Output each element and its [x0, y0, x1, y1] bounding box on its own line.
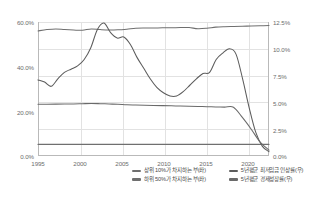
- series-line: [38, 103, 269, 150]
- left-axis-tick: 40.0%: [2, 64, 34, 71]
- series-line: [38, 26, 269, 31]
- legend-item-gdp-growth[interactable]: 5년평균 경제성장률(우): [229, 177, 320, 183]
- x-axis-tick: 2020: [228, 160, 268, 167]
- legend-item-bottom50-wealth[interactable]: 하위 50%가 차지하는 부(좌): [132, 177, 223, 183]
- legend-item-top10-wealth[interactable]: 상위 10%가 차지하는 부(좌): [132, 168, 223, 174]
- left-axis-tick: 20.0%: [2, 109, 34, 116]
- legend-label: 5년평균 최저임금 인상률(우): [241, 168, 304, 174]
- right-axis-tick: 0.0%: [273, 153, 307, 160]
- legend-item-minwage-growth[interactable]: 5년평균 최저임금 인상률(우): [229, 168, 320, 174]
- x-axis-tick: 1995: [18, 160, 58, 167]
- legend-label: 하위 50%가 차지하는 부(좌): [144, 177, 206, 183]
- series-layer: [38, 22, 269, 156]
- right-axis-tick: 5.0%: [273, 100, 307, 107]
- x-axis-tick: 2015: [186, 160, 226, 167]
- chart-legend: 상위 10%가 차지하는 부(좌) 5년평균 최저임금 인상률(우) 하위 50…: [132, 168, 320, 182]
- legend-label: 상위 10%가 차지하는 부(좌): [144, 168, 206, 174]
- x-axis-tick: 2010: [144, 160, 184, 167]
- chart-container: 60.0% 40.0% 20.0% 0.0% 12.5% 10.0% 7.5% …: [0, 0, 321, 202]
- legend-swatch-icon: [132, 170, 141, 173]
- right-axis-tick: 7.5%: [273, 73, 307, 80]
- x-axis-tick: 2005: [102, 160, 142, 167]
- series-line: [38, 23, 269, 152]
- right-axis-tick: 2.5%: [273, 127, 307, 134]
- x-axis-tick: 2000: [60, 160, 100, 167]
- legend-swatch-icon: [229, 170, 238, 173]
- right-axis-tick: 10.0%: [273, 46, 307, 53]
- legend-swatch-icon: [229, 178, 238, 181]
- right-axis-tick: 12.5%: [273, 19, 307, 26]
- left-axis-tick: 60.0%: [2, 19, 34, 26]
- legend-label: 5년평균 경제성장률(우): [241, 177, 292, 183]
- legend-swatch-icon: [132, 178, 141, 181]
